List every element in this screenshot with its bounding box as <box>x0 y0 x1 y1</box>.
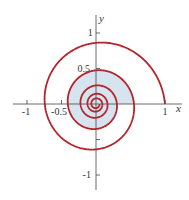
x-tick-label: -1 <box>22 106 30 117</box>
x-tick-label: 1 <box>162 106 167 117</box>
x-tick-label: -0.5 <box>51 106 67 117</box>
y-tick-label: -1 <box>83 169 91 180</box>
x-axis-label: x <box>175 102 181 114</box>
y-tick-label: 1 <box>88 27 93 38</box>
y-axis-label: y <box>98 12 104 24</box>
spiral-plot: -1-0.51 10.5-1 x y <box>0 0 189 200</box>
